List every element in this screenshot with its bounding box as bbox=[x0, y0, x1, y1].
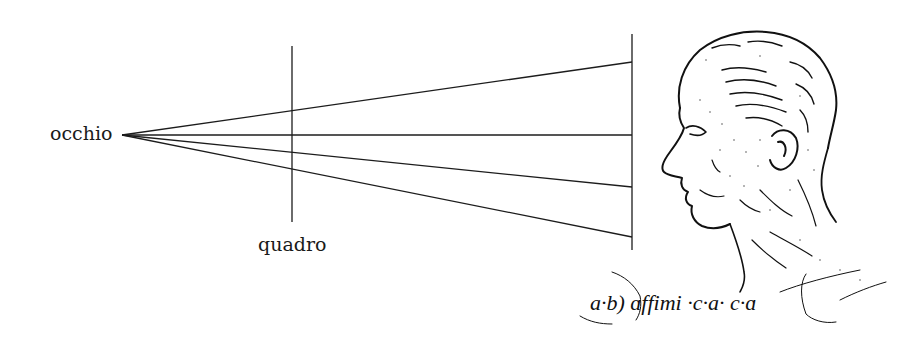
ray-4 bbox=[122, 135, 632, 237]
eye-label: occhio bbox=[50, 122, 112, 144]
ear-sketch bbox=[770, 130, 798, 169]
handwriting-text: a·b) ɑffimi ·c·a· c·ɑ bbox=[590, 290, 756, 315]
visual-rays bbox=[122, 62, 632, 237]
neck-front bbox=[730, 224, 745, 292]
handwritten-caption: a·b) ɑffimi ·c·a· c·ɑ bbox=[580, 272, 836, 324]
eye-sketch bbox=[686, 126, 706, 135]
ray-3 bbox=[122, 135, 632, 187]
picture-plane-label: quadro bbox=[258, 233, 326, 255]
ray-1 bbox=[122, 62, 632, 135]
hair-strokes bbox=[712, 41, 814, 132]
neck-back bbox=[821, 148, 836, 222]
perspective-diagram: occhio quadro bbox=[0, 0, 903, 349]
stipple-shading bbox=[699, 55, 860, 280]
profile-head-sketch bbox=[662, 32, 886, 300]
shoulder-sketch bbox=[780, 270, 886, 300]
face-detail-strokes bbox=[700, 160, 816, 268]
skull-outline bbox=[679, 32, 837, 148]
